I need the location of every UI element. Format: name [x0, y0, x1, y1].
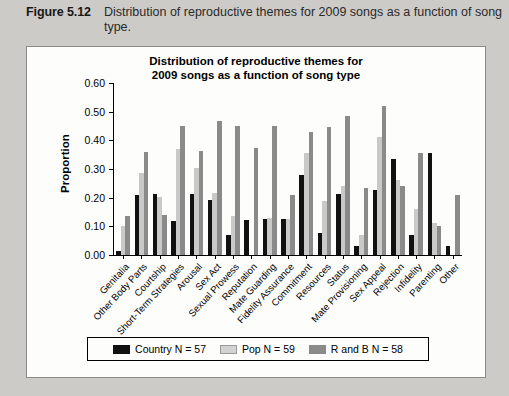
x-tick-mark: [416, 255, 417, 259]
chart-title-line-1: Distribution of reproductive themes for: [27, 55, 485, 69]
bar-rnb: [382, 106, 387, 255]
x-tick-mark: [361, 255, 362, 259]
x-tick-mark: [178, 255, 179, 259]
bar-group: [224, 83, 242, 255]
y-tick-mark: [109, 112, 113, 113]
y-axis-label: Proportion: [59, 134, 71, 193]
bar-rnb: [217, 121, 222, 255]
legend-label: Country N = 57: [135, 343, 206, 355]
y-tick-mark: [109, 255, 113, 256]
y-tick-mark: [109, 198, 113, 199]
y-tick-label: 0.00: [85, 249, 105, 261]
y-tick-label: 0.20: [85, 192, 105, 204]
x-tick-mark: [123, 255, 124, 259]
figure-panel: Distribution of reproductive themes for …: [26, 46, 486, 378]
legend-label: R and B N = 58: [331, 343, 403, 355]
bar-rnb: [327, 127, 332, 255]
legend-swatch-pop: [220, 345, 237, 354]
y-tick-mark: [109, 226, 113, 227]
bar-groups: [114, 83, 462, 255]
bar-group: [114, 83, 132, 255]
bar-group: [370, 83, 388, 255]
bar-rnb: [125, 216, 130, 255]
y-tick-label: 0.50: [85, 106, 105, 118]
bar-group: [352, 83, 370, 255]
y-tick-mark: [109, 169, 113, 170]
x-tick-mark: [196, 255, 197, 259]
x-tick-mark: [380, 255, 381, 259]
bar-rnb: [400, 186, 405, 255]
x-tick-label: Other: [436, 261, 460, 286]
bar-rnb: [290, 195, 295, 255]
bar-group: [279, 83, 297, 255]
x-tick-mark: [160, 255, 161, 259]
x-tick-mark: [141, 255, 142, 259]
y-tick-mark: [109, 83, 113, 84]
y-tick-mark: [109, 140, 113, 141]
bar-group: [261, 83, 279, 255]
figure-caption: Figure 5.12 Distribution of reproductive…: [0, 0, 509, 44]
legend-item: Pop N = 59: [220, 343, 295, 355]
bar-country: [244, 220, 249, 255]
bar-rnb: [437, 226, 442, 255]
y-axis-ticks: 0.000.100.200.300.400.500.60: [73, 83, 109, 263]
x-tick-mark: [398, 255, 399, 259]
bar-rnb: [144, 152, 149, 255]
x-tick-mark: [434, 255, 435, 259]
x-tick-mark: [270, 255, 271, 259]
plot-area: Proportion 0.000.100.200.300.400.500.60 …: [27, 83, 485, 313]
bar-group: [315, 83, 333, 255]
bar-rnb: [364, 188, 369, 255]
bar-group: [242, 83, 260, 255]
y-tick-label: 0.10: [85, 220, 105, 232]
legend-item: R and B N = 58: [309, 343, 403, 355]
x-tick-mark: [215, 255, 216, 259]
bar-group: [407, 83, 425, 255]
x-tick-mark: [325, 255, 326, 259]
bar-rnb: [235, 126, 240, 255]
figure-number: Figure 5.12: [26, 5, 91, 35]
bar-group: [132, 83, 150, 255]
figure-caption-text: Distribution of reproductive themes for …: [104, 5, 504, 35]
bar-group: [334, 83, 352, 255]
legend-swatch-rnb: [309, 345, 326, 354]
bar-group: [389, 83, 407, 255]
bar-group: [206, 83, 224, 255]
x-tick-mark: [306, 255, 307, 259]
bar-rnb: [180, 126, 185, 255]
bar-group: [425, 83, 443, 255]
x-tick-mark: [343, 255, 344, 259]
x-tick-mark: [288, 255, 289, 259]
y-tick-label: 0.40: [85, 134, 105, 146]
bar-rnb: [162, 215, 167, 255]
x-tick-mark: [233, 255, 234, 259]
chart-legend: Country N = 57Pop N = 59R and B N = 58: [87, 337, 429, 361]
bar-group: [187, 83, 205, 255]
bar-group: [169, 83, 187, 255]
legend-item: Country N = 57: [113, 343, 206, 355]
y-tick-label: 0.60: [85, 77, 105, 89]
x-tick-mark: [453, 255, 454, 259]
bar-rnb: [345, 116, 350, 255]
bar-rnb: [309, 132, 314, 255]
legend-swatch-country: [113, 345, 130, 354]
bar-rnb: [418, 153, 423, 255]
bar-rnb: [254, 148, 259, 256]
bar-group: [444, 83, 462, 255]
bar-country: [446, 246, 451, 255]
bar-rnb: [455, 195, 460, 255]
bar-group: [151, 83, 169, 255]
legend-label: Pop N = 59: [242, 343, 295, 355]
y-tick-label: 0.30: [85, 163, 105, 175]
bar-rnb: [199, 151, 204, 255]
bar-group: [297, 83, 315, 255]
x-tick-mark: [251, 255, 252, 259]
bar-rnb: [272, 126, 277, 255]
